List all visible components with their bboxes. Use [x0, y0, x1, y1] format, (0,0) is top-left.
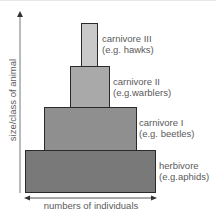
pyramid-bar-carnivore-ii [70, 66, 110, 109]
level-example: (e.g.warblers) [113, 87, 171, 98]
pyramid-bar-carnivore-iii [81, 23, 98, 67]
level-label-carnivore-iii: carnivore III (e.g. hawks) [102, 33, 154, 55]
level-label-herbivore: herbivore (e.g.aphids) [159, 160, 209, 182]
level-name: carnivore I [139, 117, 194, 128]
level-example: (e.g. hawks) [102, 44, 154, 55]
level-name: herbivore [159, 160, 209, 171]
level-label-carnivore-i: carnivore I (e.g. beetles) [139, 117, 194, 139]
right-arrow-icon [151, 196, 157, 201]
up-arrow-icon [17, 11, 23, 17]
level-example: (e.g. beetles) [139, 128, 194, 139]
level-name: carnivore III [102, 33, 154, 44]
left-arrow-icon [24, 196, 30, 201]
y-axis-label: size/class of animal [7, 59, 18, 141]
level-label-carnivore-ii: carnivore II (e.g.warblers) [113, 76, 171, 98]
x-axis-label: numbers of individuals [44, 200, 139, 211]
pyramid-bar-herbivore [25, 150, 156, 193]
level-example: (e.g.aphids) [159, 171, 209, 182]
pyramid-bar-carnivore-i [44, 107, 137, 151]
level-name: carnivore II [113, 76, 171, 87]
